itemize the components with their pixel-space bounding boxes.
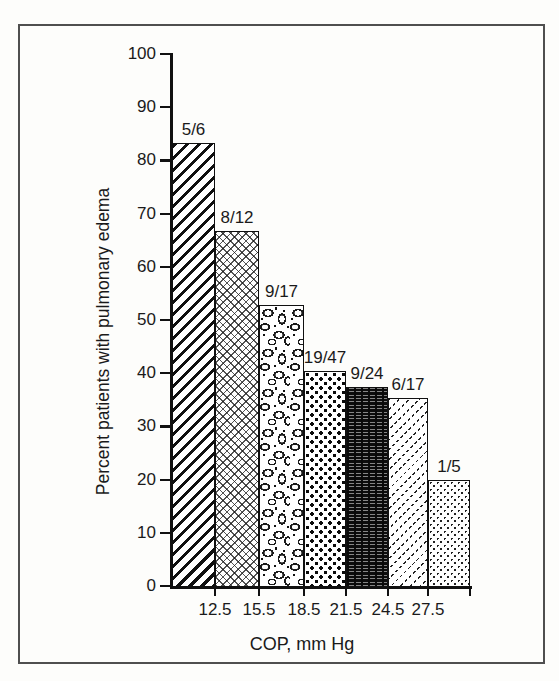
y-axis-tick xyxy=(160,425,170,427)
x-tick-label: 21.5 xyxy=(322,600,370,620)
y-tick-label: 60 xyxy=(108,257,156,277)
y-axis-tick xyxy=(160,159,170,161)
x-axis-tick xyxy=(387,588,389,596)
bar-value-label: 6/17 xyxy=(376,375,440,395)
y-tick-label: 40 xyxy=(108,363,156,383)
x-tick-label: 15.5 xyxy=(235,600,283,620)
y-axis-tick xyxy=(160,372,170,374)
x-axis-title: COP, mm Hg xyxy=(152,634,452,655)
bar-pebbles xyxy=(259,305,304,586)
y-axis-tick xyxy=(160,266,170,268)
x-axis-tick xyxy=(214,588,216,596)
y-tick-label: 50 xyxy=(108,310,156,330)
y-tick-label: 100 xyxy=(108,44,156,64)
y-tick-label: 80 xyxy=(108,150,156,170)
y-tick-label: 10 xyxy=(108,523,156,543)
x-axis-tick xyxy=(345,588,347,596)
bar-fine-dots xyxy=(428,480,470,586)
y-tick-label: 90 xyxy=(108,97,156,117)
y-axis-tick xyxy=(160,479,170,481)
y-tick-label: 20 xyxy=(108,470,156,490)
y-axis-tick xyxy=(160,213,170,215)
y-axis-title: Percent patients with pulmonary edema xyxy=(93,162,114,522)
x-axis-tick xyxy=(469,588,471,596)
x-tick-label: 27.5 xyxy=(404,600,452,620)
x-axis-tick xyxy=(427,588,429,596)
bar-value-label: 5/6 xyxy=(162,120,226,140)
figure-frame: 010203040506070809010012.515.518.521.524… xyxy=(18,24,545,664)
bar-checker-squares xyxy=(304,371,346,586)
y-axis-tick xyxy=(160,106,170,108)
x-tick-label: 18.5 xyxy=(280,600,328,620)
y-tick-label: 70 xyxy=(108,204,156,224)
y-axis-tick xyxy=(160,319,170,321)
bar-dark-noise xyxy=(346,387,388,587)
bar-value-label: 9/17 xyxy=(250,282,314,302)
bar-value-label: 1/5 xyxy=(417,457,481,477)
y-tick-label: 30 xyxy=(108,416,156,436)
x-axis-tick xyxy=(258,588,260,596)
y-axis-tick xyxy=(160,585,170,587)
y-axis-tick xyxy=(160,53,170,55)
y-axis-tick xyxy=(160,532,170,534)
x-tick-label: 12.5 xyxy=(191,600,239,620)
y-tick-label: 0 xyxy=(108,576,156,596)
bar-value-label: 8/12 xyxy=(205,208,269,228)
x-axis-tick xyxy=(303,588,305,596)
bar-diagonal-dashes xyxy=(388,398,428,586)
